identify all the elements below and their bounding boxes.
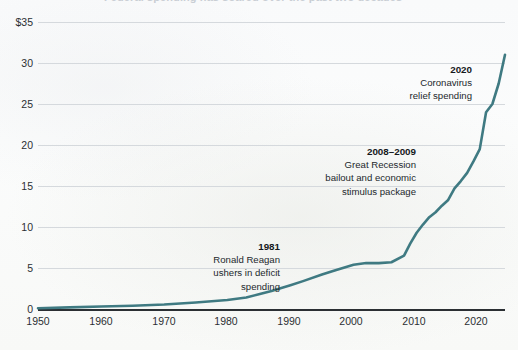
spending-line-series (0, 0, 518, 350)
annotation-reagan: 1981 Ronald Reagan ushers in deficit spe… (158, 240, 280, 293)
annotation-great-recession: 2008–2009 Great Recession bailout and ec… (286, 145, 416, 198)
annotation-reagan-line1: Ronald Reagan (158, 253, 280, 266)
annotation-great-recession-line2: bailout and economic (286, 171, 416, 184)
annotation-reagan-year: 1981 (158, 240, 280, 253)
line-chart: $35 30 25 20 15 10 5 0 1950 1960 1970 19… (0, 0, 518, 350)
annotation-covid-line2: relief spending (360, 89, 472, 102)
annotation-reagan-line2: ushers in deficit (158, 266, 280, 279)
annotation-reagan-line3: spending (158, 280, 280, 293)
annotation-covid-line1: Coronavirus (360, 76, 472, 89)
annotation-covid-year: 2020 (360, 63, 472, 76)
annotation-great-recession-line1: Great Recession (286, 158, 416, 171)
annotation-covid: 2020 Coronavirus relief spending (360, 63, 472, 103)
annotation-great-recession-line3: stimulus package (286, 185, 416, 198)
annotation-great-recession-year: 2008–2009 (286, 145, 416, 158)
